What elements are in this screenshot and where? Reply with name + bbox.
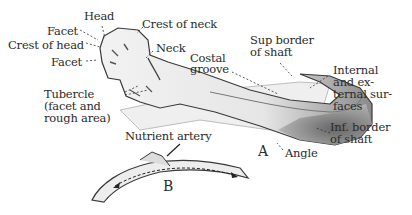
label-nutrient-artery: Nutrient artery: [125, 130, 212, 142]
label-crest-of-head: Crest of head: [8, 39, 84, 51]
rib-anatomy-figure: Head Facet Crest of head Facet Crest of …: [0, 0, 412, 215]
label-angle: Angle: [285, 147, 318, 159]
label-head: Head: [84, 10, 114, 22]
label-neck: Neck: [156, 42, 185, 54]
label-costal-groove-2: groove: [190, 63, 229, 75]
label-crest-of-neck: Crest of neck: [142, 18, 217, 30]
label-view-a: A: [258, 145, 268, 157]
label-sup-border-2: of shaft: [250, 46, 292, 58]
label-int-ext-4: faces: [333, 100, 362, 112]
label-facet-lower: Facet: [51, 56, 82, 68]
label-inf-border-2: of shaft: [330, 133, 372, 145]
label-tubercle-3: rough area): [44, 112, 111, 124]
label-facet-upper: Facet: [47, 25, 78, 37]
label-view-b: B: [163, 180, 173, 192]
